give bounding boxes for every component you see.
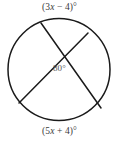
arc-measure-bottom-label: (5x + 4)° [42,127,77,137]
arc-measure-top-label: (3x − 4)° [42,3,77,13]
chord-a-line [41,23,101,108]
intersection-angle-label: 80° [53,64,66,73]
geometry-figure: (3x − 4)° 80° (5x + 4)° [0,0,119,142]
